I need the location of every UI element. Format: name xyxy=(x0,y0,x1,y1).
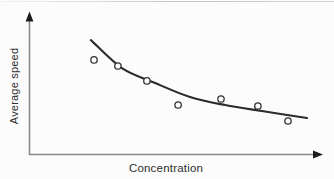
data-point xyxy=(144,78,150,84)
data-point xyxy=(255,103,261,109)
y-axis-label: Average speed xyxy=(8,48,20,124)
data-point xyxy=(115,63,121,69)
fit-curve xyxy=(91,40,307,118)
scatter-chart xyxy=(0,0,334,179)
data-point xyxy=(91,57,97,63)
data-point xyxy=(285,118,291,124)
x-axis-arrowhead-icon xyxy=(313,151,323,159)
x-axis-label: Concentration xyxy=(129,162,203,174)
scanned-figure-page: Average speed Concentration xyxy=(0,0,334,179)
y-axis-arrowhead-icon xyxy=(26,12,34,22)
data-point xyxy=(218,96,224,102)
axes xyxy=(26,12,323,159)
data-point xyxy=(175,102,181,108)
data-points xyxy=(91,57,291,125)
